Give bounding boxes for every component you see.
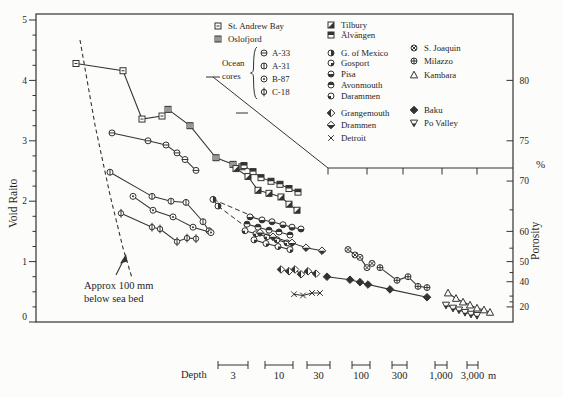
left-axis: 012345: [22, 15, 36, 322]
marker-square-vlines-icon: [165, 106, 171, 112]
marker-circle-dot-icon: [170, 214, 176, 220]
marker-circle-vline-icon: [261, 63, 267, 69]
legend-item-drammen: Drammen: [327, 120, 377, 130]
marker-circle-quarter-br-icon: [275, 244, 281, 250]
svg-text:Pisa: Pisa: [341, 69, 356, 79]
marker-circle-hline-icon: [109, 130, 115, 136]
svg-text:30: 30: [313, 370, 324, 381]
marker-circle-phi-icon: [184, 234, 189, 243]
marker-circle-vline-icon: [200, 219, 206, 225]
svg-text:A-33: A-33: [272, 48, 291, 58]
marker-diamond-filled-icon: [323, 273, 331, 281]
marker-triangle-up-icon: [466, 301, 473, 308]
marker-circle-hatch-icon: [345, 247, 351, 253]
legend-item-tilbury: Tilbury: [328, 20, 368, 30]
legend-item-s-joaquin: S. Joaquin: [411, 43, 461, 53]
legend-item-avonmouth: Avonmouth: [328, 80, 383, 90]
marker-circle-quarter-br-icon: [287, 247, 293, 253]
marker-square-tophalf-icon: [277, 181, 283, 187]
gulf-of-mexico-dashed-ray: [218, 206, 247, 228]
svg-text:Avonmouth: Avonmouth: [341, 80, 383, 90]
marker-circle-plus-icon: [405, 274, 411, 280]
marker-square-diag-icon: [255, 187, 261, 193]
svg-text:C-18: C-18: [272, 87, 290, 97]
svg-text:G. of Mexico: G. of Mexico: [341, 48, 389, 58]
marker-circle-righthalf-icon: [328, 50, 334, 56]
marker-square-tophalf-icon: [295, 189, 301, 195]
marker-circle-phi-icon: [118, 209, 123, 218]
marker-circle-bottomhalf-icon: [298, 226, 304, 232]
marker-circle-quarter-br-icon: [328, 60, 334, 66]
marker-circle-hline-icon: [261, 50, 267, 56]
marker-triangle-down-half-icon: [442, 302, 449, 309]
svg-text:Po Valley: Po Valley: [424, 118, 458, 128]
marker-square-dash-icon: [73, 60, 79, 66]
marker-circle-phi-icon: [157, 225, 162, 234]
series-milazzo: [377, 265, 430, 291]
marker-square-tophalf-icon: [328, 32, 334, 38]
marker-circle-bottomhalf-icon: [269, 219, 275, 225]
porosity-unit-label: %: [536, 158, 545, 170]
marker-circle-tophalf-icon: [266, 227, 272, 233]
marker-diamond-filled-icon: [356, 278, 364, 286]
svg-text:m: m: [488, 370, 496, 381]
marker-square-diag-icon: [233, 166, 239, 172]
depth-scale-label: Depth: [181, 369, 207, 380]
svg-text:1,000: 1,000: [429, 370, 453, 381]
marker-circle-bottomhalf-icon: [247, 214, 253, 220]
marker-square-dash-icon: [159, 113, 165, 119]
marker-square-tophalf-icon: [241, 163, 247, 169]
marker-circle-righthalf-icon: [215, 203, 221, 209]
marker-circle-phi-icon: [193, 234, 198, 243]
legend-item-a-31: A-31: [261, 61, 290, 71]
legend-item-pisa: Pisa: [328, 69, 356, 79]
marker-circle-dot-icon: [208, 230, 214, 236]
marker-circle-vline-icon: [168, 198, 174, 204]
svg-text:Milazzo: Milazzo: [424, 56, 453, 66]
svg-text:3: 3: [22, 136, 27, 146]
svg-text:cores: cores: [222, 71, 241, 81]
svg-text:1: 1: [22, 257, 27, 267]
series-g-of-mexico: [210, 196, 221, 209]
marker-diamond-filled-icon: [386, 286, 394, 294]
marker-square-diag-icon: [286, 201, 292, 207]
marker-diamond-filled-icon: [364, 281, 372, 289]
marker-square-diag-icon: [294, 207, 300, 213]
marker-diamond-filled-icon: [346, 276, 354, 284]
series-s-joaquin: [345, 247, 375, 271]
svg-text:Tilbury: Tilbury: [341, 20, 368, 30]
marker-circle-bottomhalf-icon: [328, 71, 334, 77]
svg-text:80: 80: [520, 76, 530, 86]
svg-text:B-87: B-87: [272, 74, 290, 84]
marker-square-tophalf-icon: [258, 175, 264, 181]
marker-circle-hline-icon: [174, 150, 180, 156]
marker-circle-plus-icon: [377, 265, 383, 271]
marker-circle-vline-icon: [107, 169, 113, 175]
svg-text:100: 100: [353, 370, 369, 381]
marker-circle-hatch-icon: [357, 254, 363, 260]
svg-text:A-31: A-31: [272, 61, 290, 71]
marker-circle-dot-icon: [150, 207, 156, 213]
legend-item-darammen: Darammen: [328, 91, 381, 101]
marker-diamond-lefthalf-icon: [327, 109, 335, 117]
legend-item-milazzo: Milazzo: [411, 56, 453, 66]
svg-text:3,000: 3,000: [461, 370, 485, 381]
marker-circle-quarter-br-icon: [263, 240, 269, 246]
y-axis-title: Void Raito: [7, 179, 19, 228]
marker-circle-tophalf-icon: [276, 229, 282, 235]
series-st-andrew-bay: [73, 60, 165, 122]
marker-diamond-bottomhalf-icon: [302, 244, 310, 252]
svg-text:Älvängen: Älvängen: [341, 30, 376, 40]
marker-circle-phi-icon: [149, 223, 154, 232]
marker-square-vlines-icon: [187, 123, 193, 129]
svg-text:20: 20: [520, 302, 530, 312]
marker-square-tophalf-icon: [268, 178, 274, 184]
svg-text:70: 70: [520, 176, 530, 186]
marker-circle-hatch-icon: [364, 265, 370, 271]
svg-text:10: 10: [274, 370, 285, 381]
marker-diamond-bottomhalf-icon: [318, 247, 326, 255]
svg-text:Drammen: Drammen: [341, 120, 377, 130]
legend-item-baku: Baku: [410, 105, 443, 115]
svg-text:60: 60: [520, 227, 530, 237]
legend-item-g-of-mexico: G. of Mexico: [328, 48, 389, 58]
